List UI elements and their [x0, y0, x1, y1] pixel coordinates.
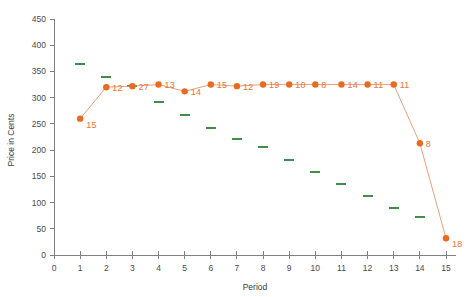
data-point-marker: [77, 115, 83, 121]
data-point-marker: [260, 81, 266, 87]
price-series-markers: [77, 81, 449, 241]
x-tick-label: 1: [78, 263, 83, 273]
data-point-label: 11: [374, 80, 384, 90]
data-point-label: 12: [243, 82, 254, 92]
data-point-marker: [181, 88, 187, 94]
x-tick-label: 11: [337, 263, 346, 273]
data-point-marker: [234, 83, 240, 89]
y-tick-label: 0: [41, 250, 46, 260]
data-point-marker: [417, 140, 423, 146]
x-tick-label: 12: [363, 263, 373, 273]
data-point-marker: [364, 81, 370, 87]
data-point-label: 19: [269, 80, 280, 90]
data-point-label: 13: [165, 80, 176, 90]
x-tick-label: 0: [52, 263, 57, 273]
x-tick-label: 6: [208, 263, 213, 273]
data-point-label: 11: [400, 80, 410, 90]
x-tick-label: 8: [261, 263, 266, 273]
data-point-marker: [312, 81, 318, 87]
data-point-label: 12: [112, 83, 123, 93]
data-point-marker: [286, 81, 292, 87]
x-axis-ticks: 0123456789101112131415: [52, 251, 451, 273]
data-point-marker: [208, 81, 214, 87]
x-tick-label: 14: [415, 263, 425, 273]
data-point-label: 15: [217, 80, 228, 90]
y-tick-label: 100: [32, 198, 46, 208]
x-tick-label: 10: [311, 263, 321, 273]
y-tick-label: 200: [32, 145, 46, 155]
x-axis: 0123456789101112131415: [52, 251, 456, 273]
data-point-label: 14: [191, 87, 202, 97]
price-series-data-labels: 1512271314151219108141111818: [86, 80, 462, 249]
y-tick-label: 400: [32, 40, 46, 50]
y-tick-label: 150: [32, 171, 46, 181]
data-point-marker: [391, 81, 397, 87]
data-point-marker: [443, 235, 449, 241]
x-tick-label: 4: [156, 263, 161, 273]
x-axis-title: Period: [243, 282, 268, 292]
x-tick-label: 7: [235, 263, 240, 273]
price-period-line-chart: 050100150200250300350400450 012345678910…: [0, 0, 473, 297]
x-tick-label: 3: [130, 263, 135, 273]
data-point-label: 27: [138, 82, 149, 92]
data-point-label: 8: [321, 80, 326, 90]
data-point-marker: [129, 83, 135, 89]
chart-container: 050100150200250300350400450 012345678910…: [0, 0, 473, 297]
y-tick-label: 300: [32, 93, 46, 103]
data-point-label: 8: [426, 139, 431, 149]
price-series-line: [80, 85, 446, 239]
y-tick-label: 250: [32, 119, 46, 129]
data-point-marker: [155, 81, 161, 87]
x-tick-label: 13: [389, 263, 399, 273]
x-tick-label: 15: [441, 263, 451, 273]
x-tick-label: 9: [287, 263, 292, 273]
data-point-marker: [338, 81, 344, 87]
data-point-label: 18: [452, 239, 463, 249]
y-axis-title: Price in Cents: [6, 114, 16, 167]
data-point-label: 15: [86, 120, 97, 130]
data-point-marker: [103, 84, 109, 90]
y-tick-label: 50: [37, 224, 47, 234]
data-point-label: 14: [347, 80, 358, 90]
data-point-label: 10: [295, 80, 306, 90]
y-tick-label: 450: [32, 14, 46, 24]
x-tick-label: 5: [182, 263, 187, 273]
y-axis: 050100150200250300350400450: [32, 14, 58, 260]
x-tick-label: 2: [104, 263, 109, 273]
y-tick-label: 350: [32, 66, 46, 76]
